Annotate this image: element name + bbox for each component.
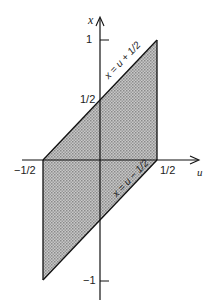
diagram-canvas [0,0,214,306]
tick-label-u-neg-half: −1/2 [14,165,36,176]
x-axis-label: x [88,14,93,26]
tick-label-u-half: 1/2 [160,165,175,176]
tick-label-x-half: 1/2 [80,94,95,105]
u-axis-label: u [197,167,203,178]
tick-label-x-neg-one: −1 [83,275,96,286]
tick-label-x-one: 1 [86,34,92,45]
